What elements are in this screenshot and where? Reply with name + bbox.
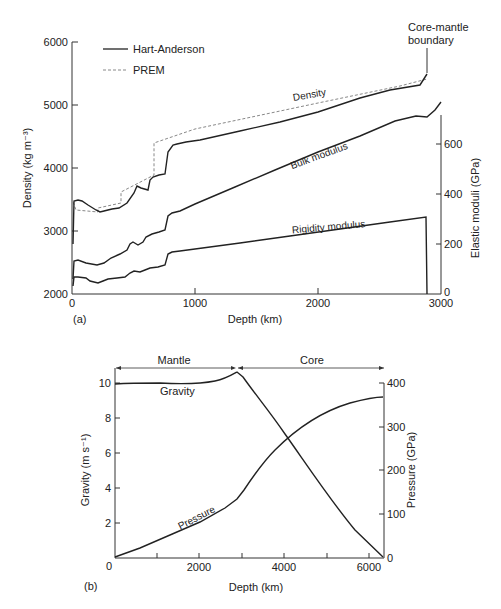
bulk-modulus-label: Bulk modulus: [289, 140, 349, 171]
b-ytick-8: 8: [105, 412, 111, 424]
cmb-label-1: Core-mantle: [408, 21, 469, 33]
a-y2tick-600: 600: [444, 138, 462, 150]
b-bottom-ticks: [157, 553, 369, 558]
a-y2tick-400: 400: [444, 188, 462, 200]
pressure-curve: [115, 397, 383, 557]
legend-hart-anderson: Hart-Anderson: [133, 43, 205, 55]
b-ytick-2: 2: [105, 517, 111, 529]
b-panel-label: (b): [84, 580, 97, 592]
a-bottom-ticks: [195, 288, 318, 294]
a-ytick-3000: 3000: [44, 225, 68, 237]
b-y2tick-300: 300: [387, 421, 405, 433]
b-ytick-0: 0: [106, 560, 112, 572]
b-y2tick-200: 200: [387, 464, 405, 476]
rigidity-modulus-curve: [73, 217, 427, 294]
b-y2tick-400: 400: [387, 377, 405, 389]
b-ytick-10: 10: [99, 377, 111, 389]
density-curve: [73, 74, 427, 244]
a-ylabel: Density (kg m⁻³): [21, 128, 33, 209]
a-right-ticks: [436, 144, 441, 244]
figure: 6000 5000 4000 3000 2000 0 1000 2000 300…: [0, 0, 501, 609]
pressure-label: Pressure: [176, 503, 217, 531]
a-panel-label: (a): [73, 313, 86, 325]
b-xlabel: Depth (km): [229, 581, 283, 593]
b-xtick-4000: 4000: [272, 561, 296, 573]
b-ytick-6: 6: [105, 447, 111, 459]
b-xtick-2000: 2000: [187, 561, 211, 573]
core-arrowhead-right: [379, 366, 384, 370]
b-ytick-4: 4: [105, 482, 111, 494]
a-xtick-3000: 3000: [429, 297, 453, 309]
panel-a: 6000 5000 4000 3000 2000 0 1000 2000 300…: [21, 21, 481, 325]
a-y2tick-200: 200: [444, 238, 462, 250]
bulk-modulus-curve: [73, 102, 441, 279]
gravity-curve: [115, 372, 383, 557]
b-y2tick-100: 100: [387, 508, 405, 520]
gravity-label: Gravity: [160, 385, 195, 397]
a-y2tick-0: 0: [444, 286, 450, 298]
b-y2tick-0: 0: [387, 552, 393, 564]
mantle-label: Mantle: [157, 354, 190, 366]
a-xtick-1000: 1000: [183, 297, 207, 309]
a-ytick-2000: 2000: [44, 288, 68, 300]
b-y2label: Pressure (GPa): [405, 432, 417, 508]
b-xtick-6000: 6000: [357, 561, 381, 573]
density-label: Density: [292, 86, 327, 103]
b-right-ticks: [379, 383, 384, 514]
density-prem-curve: [73, 79, 427, 212]
cmb-label-2: boundary: [408, 34, 454, 46]
panel-b: Mantle Core 10 8 6 4 2 0 2000 4000 6000 …: [79, 354, 417, 593]
b-left-ticks: [115, 383, 120, 523]
a-ytick-4000: 4000: [44, 162, 68, 174]
mantle-arrowhead-left: [116, 366, 121, 370]
legend-prem: PREM: [133, 64, 165, 76]
mantle-arrowhead-right: [231, 366, 236, 370]
a-xtick-0: 0: [69, 297, 75, 309]
rigidity-modulus-label: Rigidity modulus: [292, 218, 366, 235]
core-label: Core: [300, 354, 324, 366]
a-ytick-5000: 5000: [44, 99, 68, 111]
core-arrowhead-left: [238, 366, 243, 370]
a-xlabel: Depth (km): [228, 313, 282, 325]
b-ylabel: Gravity (m s⁻¹): [79, 434, 91, 507]
a-y2label: Elastic moduli (GPa): [469, 158, 481, 258]
a-xtick-2000: 2000: [306, 297, 330, 309]
a-ytick-6000: 6000: [44, 36, 68, 48]
